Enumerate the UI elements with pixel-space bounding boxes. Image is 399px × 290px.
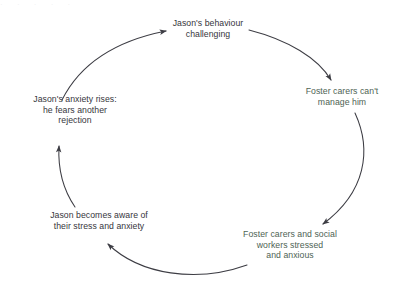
page-top-bleed-artifact: · · · · · bbox=[0, 0, 399, 7]
node-jason-anxiety-rises-fears-rejection: Jason's anxiety rises: he fears another … bbox=[5, 94, 145, 126]
cycle-diagram: · · · · · Jason's behaviour challenging … bbox=[0, 0, 399, 290]
node-foster-carers-and-social-workers-stressed: Foster carers and social workers stresse… bbox=[220, 229, 360, 261]
node-jason-becomes-aware-of-stress: Jason becomes aware of their stress and … bbox=[24, 210, 174, 231]
node-foster-carers-cant-manage-him: Foster carers can't manage him bbox=[282, 86, 399, 107]
node-jason-behaviour-challenging: Jason's behaviour challenging bbox=[143, 18, 273, 39]
arrow-carers-cope-to-stressed bbox=[323, 113, 364, 224]
arrow-jason-aware-to-anxiety bbox=[59, 146, 75, 207]
arrow-anxiety-to-behaviour bbox=[62, 31, 166, 100]
